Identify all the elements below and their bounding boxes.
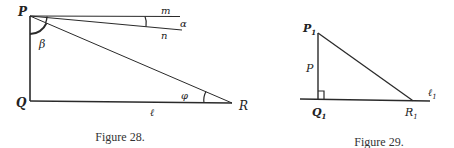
label-P1: P1 bbox=[302, 22, 316, 37]
diagram-canvas: P Q R m α n β φ ℓ Figure 28. P1 P Q1 R1 … bbox=[0, 0, 454, 148]
label-alpha: α bbox=[180, 18, 187, 29]
label-p: P bbox=[305, 62, 314, 75]
caption-figure-28: Figure 28. bbox=[95, 130, 144, 144]
label-Q: Q bbox=[16, 96, 27, 110]
segment-PR bbox=[30, 16, 232, 103]
line-n bbox=[30, 16, 182, 30]
label-m: m bbox=[161, 5, 170, 16]
figure-28: P Q R m α n β φ ℓ Figure 28. bbox=[16, 5, 248, 144]
label-l1: ℓ1 bbox=[428, 87, 437, 101]
segment-P1R1 bbox=[318, 33, 413, 101]
label-R1: R1 bbox=[404, 106, 418, 121]
label-n: n bbox=[161, 30, 167, 41]
line-m bbox=[30, 16, 180, 17]
label-beta: β bbox=[38, 38, 45, 51]
angle-alpha-arc bbox=[145, 16, 146, 26]
label-l: ℓ bbox=[150, 107, 154, 118]
label-P: P bbox=[17, 5, 28, 19]
right-angle-marker bbox=[318, 91, 324, 99]
segment-QR-line-l bbox=[30, 101, 232, 103]
figure-29: P1 P Q1 R1 ℓ1 Figure 29. bbox=[300, 22, 437, 148]
label-R: R bbox=[238, 99, 248, 113]
label-phi: φ bbox=[181, 90, 188, 101]
angle-beta-arc bbox=[30, 23, 47, 34]
caption-figure-29: Figure 29. bbox=[354, 135, 403, 148]
label-Q1: Q1 bbox=[312, 106, 326, 121]
angle-phi-arc bbox=[204, 92, 206, 104]
